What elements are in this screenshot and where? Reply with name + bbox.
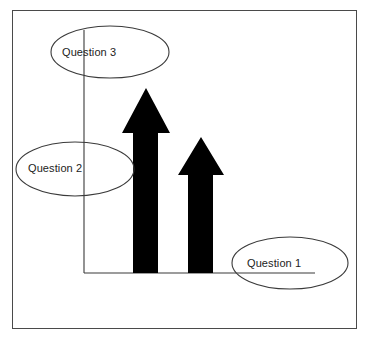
- callout-label-question-1: Question 1: [247, 257, 301, 269]
- short-up-arrow: [178, 137, 224, 273]
- diagram-canvas: Question 3 Question 2 Question 1: [0, 0, 369, 341]
- callout-label-question-2: Question 2: [28, 162, 82, 174]
- callout-label-question-3: Question 3: [62, 46, 116, 58]
